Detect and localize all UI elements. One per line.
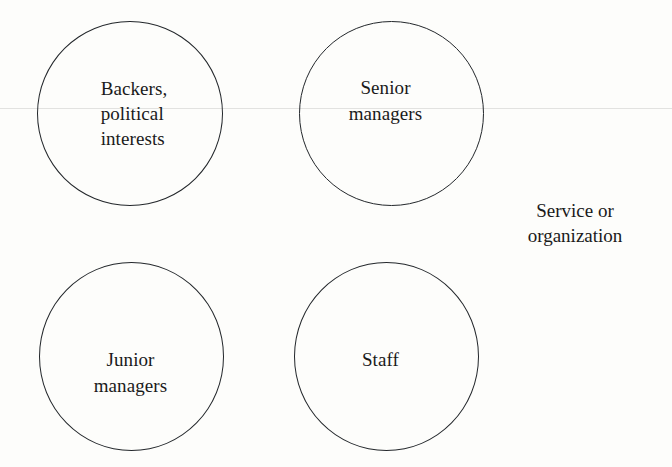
- circle-node-staff[interactable]: Staff: [294, 262, 479, 451]
- circle-node-junior-managers-label: Junior managers: [94, 347, 168, 397]
- system-boundary-label: Service or organization: [482, 198, 668, 249]
- stakeholder-circles-diagram: Backers, political interests Senior mana…: [0, 0, 672, 467]
- circle-node-senior-managers[interactable]: Senior managers: [299, 21, 484, 206]
- circle-node-staff-label: Staff: [362, 347, 399, 372]
- circle-node-backers[interactable]: Backers, political interests: [37, 21, 223, 206]
- circle-node-senior-managers-label: Senior managers: [349, 75, 423, 125]
- circle-node-backers-label: Backers, political interests: [101, 76, 168, 151]
- circle-node-junior-managers[interactable]: Junior managers: [39, 262, 224, 451]
